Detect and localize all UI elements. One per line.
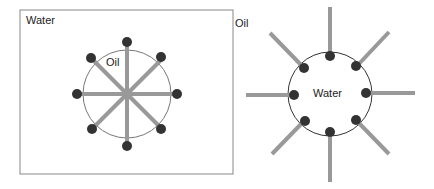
diagram-canvas	[0, 0, 434, 189]
right-inner-label: Water	[313, 87, 342, 99]
left-inner-label: Oil	[106, 56, 119, 68]
right-outer-label: Oil	[235, 17, 248, 29]
left-outer-label: Water	[26, 14, 55, 26]
micelle	[72, 37, 182, 151]
